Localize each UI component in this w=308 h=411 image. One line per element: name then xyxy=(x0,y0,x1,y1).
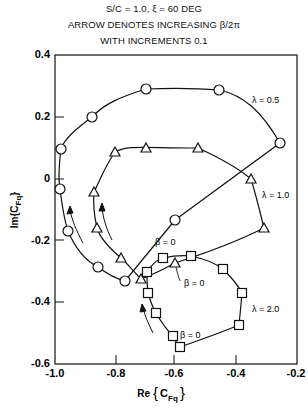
x-tick-label: -0.4 xyxy=(227,367,247,379)
label-lambda-0.5: λ = 0.5 xyxy=(252,95,279,105)
x-tick-label: -1.0 xyxy=(46,367,65,379)
svg-text:Im{CFq}: Im{CFq} xyxy=(9,192,23,229)
svg-text:Re: Re xyxy=(137,388,150,399)
label-beta-0: β = 0 xyxy=(155,237,175,247)
beta-leaders xyxy=(176,267,180,281)
label-beta-0: β = 0 xyxy=(184,278,204,288)
svg-text:{: { xyxy=(153,384,158,401)
chart-plot: 0.4 0.2 0 -0.2 -0.4 -0.6 -1.0 -0.8 -0.6 … xyxy=(0,0,308,411)
y-tick-label: -0.2 xyxy=(31,234,50,246)
label-lambda-2.0: λ = 2.0 xyxy=(252,304,279,314)
label-lambda-1.0: λ = 1.0 xyxy=(262,190,289,200)
x-tick-label: -0.6 xyxy=(165,367,184,379)
svg-text:}: } xyxy=(180,384,185,401)
svg-text:Fq: Fq xyxy=(168,394,178,403)
direction-arrows xyxy=(67,203,153,333)
y-axis-title: Im{CFq} xyxy=(9,192,23,229)
x-tick-label: -0.8 xyxy=(107,367,126,379)
x-axis-title: Re { C Fq } xyxy=(137,384,185,403)
y-tick-label: -0.4 xyxy=(31,295,51,307)
svg-text:C: C xyxy=(160,387,168,399)
y-tick-label: 0 xyxy=(44,172,50,184)
y-tick-label: 0.4 xyxy=(35,48,51,60)
x-tick-label: -0.2 xyxy=(287,367,306,379)
label-beta-0: β = 0 xyxy=(180,330,200,340)
series-lambda-1.0 xyxy=(89,143,269,283)
series-lambda-0.5 xyxy=(55,84,285,286)
y-tick-label: 0.2 xyxy=(35,110,50,122)
x-axis xyxy=(116,355,236,364)
